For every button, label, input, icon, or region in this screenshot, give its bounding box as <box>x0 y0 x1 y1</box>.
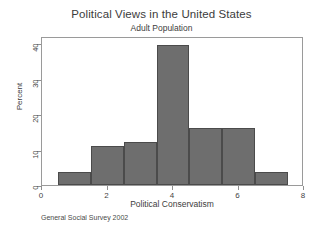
bar-2 <box>91 146 124 185</box>
y-tick-label: 40 <box>31 44 40 52</box>
x-axis-title: Political Conservatism <box>41 199 303 209</box>
x-tick-mark <box>41 186 42 190</box>
x-tick-mark <box>107 186 108 190</box>
chart-figure: Political Views in the United States Adu… <box>0 0 323 234</box>
bar-4 <box>157 45 190 185</box>
chart-subtitle: Adult Population <box>0 23 323 33</box>
bar-5 <box>189 128 222 185</box>
bar-1 <box>58 172 91 185</box>
source-note: General Social Survey 2002 <box>41 214 128 221</box>
x-tick-mark <box>172 186 173 190</box>
bar-3 <box>124 142 157 185</box>
y-tick-label: 30 <box>31 79 40 87</box>
bar-7 <box>255 172 288 185</box>
x-tick-mark <box>238 186 239 190</box>
bars-layer <box>42 38 302 185</box>
y-axis-title: Percent <box>15 83 24 111</box>
y-tick-label: 10 <box>31 150 40 158</box>
plot-area <box>41 37 303 186</box>
bar-6 <box>222 128 255 185</box>
x-tick-mark <box>303 186 304 190</box>
y-tick-label: 20 <box>31 115 40 123</box>
chart-title: Political Views in the United States <box>0 8 323 20</box>
